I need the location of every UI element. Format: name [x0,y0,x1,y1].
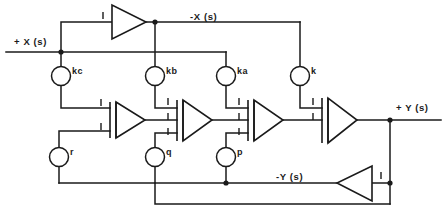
wire-x-to-top-inverter [61,22,112,52]
label-y-output: + Y (s) [396,102,429,113]
label-gain-ka: ka [237,66,248,76]
label-gain-k: k [311,66,317,76]
gain-node-kc[interactable] [52,67,71,86]
gain-node-r[interactable] [50,148,69,167]
gain-node-ka[interactable] [217,67,236,86]
amp-triangle [112,5,146,39]
wire-ka-to-amp3 [226,86,248,108]
junction-y-output [387,117,392,122]
circuit-diagram: + X (s) -X (s) + Y (s) -Y (s) kc kb ka k… [0,0,447,216]
junction-x-bus [58,49,63,54]
diagram-canvas: + X (s) -X (s) + Y (s) -Y (s) kc kb ka k… [0,0,447,216]
gain-node-k[interactable] [291,67,310,86]
wiring-layer [6,22,441,204]
junction-negy-bus [223,180,228,185]
wire-k-to-amp4 [300,86,322,108]
label-gain-kc: kc [72,66,83,76]
amp-triangle [328,98,357,143]
amplifier-integrator-1[interactable] [101,99,145,138]
label-x-input: + X (s) [14,36,47,47]
label-gain-r: r [70,147,74,157]
wire-p-to-amp3 [226,133,248,147]
amp-triangle [183,100,212,141]
wire-r-to-amp1 [59,131,110,147]
label-gain-kb: kb [166,66,177,76]
amp-triangle [337,166,372,201]
gain-node-p[interactable] [217,148,236,167]
amp-triangle [254,100,283,141]
label-neg-y: -Y (s) [276,171,303,182]
wire-kb-to-amp2 [155,86,177,108]
label-gain-p: p [237,147,243,157]
amp-triangle [116,102,145,138]
wire-kc-to-amp1 [61,86,110,108]
wire-q-to-amp2 [155,133,177,147]
label-neg-x: -X (s) [190,11,217,22]
gain-node-q[interactable] [146,148,165,167]
label-gain-q: q [166,147,172,157]
gain-node-kb[interactable] [146,67,165,86]
junction-y-bottom [387,180,392,185]
junction-negx [152,19,157,24]
